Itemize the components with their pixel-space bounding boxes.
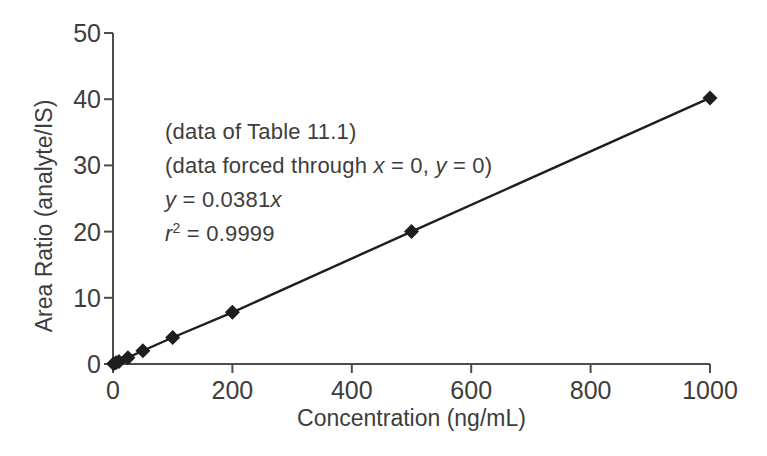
x-tick-label: 600 <box>450 376 492 404</box>
annotation-line2-prefix: (data forced through <box>165 153 373 178</box>
annotation-line2-mid: = 0, <box>385 153 436 178</box>
x-tick-label: 800 <box>570 376 612 404</box>
y-tick-label: 50 <box>73 19 101 47</box>
calibration-curve-figure: 0200400600800100001020304050 Area Ratio … <box>0 0 767 456</box>
x-axis-label: Concentration (ng/mL) <box>113 405 710 432</box>
annotation-line4-sup: 2 <box>173 220 181 236</box>
data-point-diamond <box>165 330 180 345</box>
annotation-block: (data of Table 11.1) (data forced throug… <box>165 115 492 251</box>
annotation-equation: y = 0.0381x <box>165 183 492 217</box>
annotation-r-squared: r2 = 0.9999 <box>165 217 492 251</box>
annotation-line3-xvar: x <box>270 187 281 212</box>
annotation-forced-through: (data forced through x = 0, y = 0) <box>165 149 492 183</box>
data-point-diamond <box>225 305 240 320</box>
annotation-line3-yvar: y <box>165 187 176 212</box>
annotation-line2-suffix: = 0) <box>447 153 493 178</box>
annotation-line4-eq: = 0.9999 <box>181 221 275 246</box>
annotation-line1-text: (data of Table 11.1) <box>165 119 357 144</box>
x-tick-label: 0 <box>106 376 120 404</box>
x-tick-label: 200 <box>212 376 254 404</box>
annotation-data-source: (data of Table 11.1) <box>165 115 492 149</box>
annotation-line2-xvar: x <box>373 153 384 178</box>
annotation-line2-yvar: y <box>435 153 446 178</box>
y-tick-label: 20 <box>73 218 101 246</box>
data-point-diamond <box>135 343 150 358</box>
y-tick-label: 40 <box>73 85 101 113</box>
annotation-line3-eq: = 0.0381 <box>176 187 270 212</box>
x-tick-label: 1000 <box>682 376 738 404</box>
x-tick-label: 400 <box>331 376 373 404</box>
y-tick-label: 0 <box>87 350 101 378</box>
data-point-diamond <box>703 90 718 105</box>
y-tick-label: 10 <box>73 284 101 312</box>
annotation-line4-rvar: r <box>165 221 173 246</box>
y-tick-label: 30 <box>73 151 101 179</box>
y-axis-label: Area Ratio (analyte/IS) <box>31 76 59 356</box>
